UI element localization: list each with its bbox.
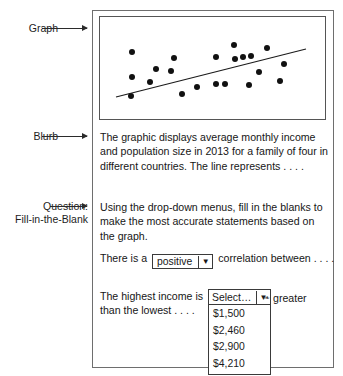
dropdown-amount-header[interactable]: Select… ▼ ❧ [209,290,270,305]
dropdown-amount-option-list[interactable]: $1,500$2,460$2,900$4,210 [209,305,270,374]
statement-income-prefix: The highest income is [100,290,203,302]
scatter-point [231,42,237,48]
statement-income-line2: than the lowest . . . . [100,304,195,316]
dropdown-correlation[interactable]: positive▼ [152,254,213,269]
scatter-point [277,78,283,84]
statement-correlation-prefix: There is a [100,252,147,264]
scatter-point [232,56,238,62]
scatter-point [246,82,252,88]
statement-income-suffix: greater [273,291,307,305]
scatter-point [256,69,262,75]
scatter-point [222,81,228,87]
scatter-point [147,79,153,85]
arrow-to-graph-icon [42,28,87,29]
scatter-point [264,45,270,51]
scatter-point [240,54,246,60]
dropdown-correlation-value: positive [153,255,196,268]
chevron-down-icon[interactable]: ▼ ❧ [257,293,270,302]
blurb-text: The graphic displays average monthly inc… [100,130,328,173]
dropdown-amount-value: Select… [209,292,256,303]
dropdown-amount-option[interactable]: $2,460 [209,323,270,340]
scatter-point [171,55,177,61]
scatter-point [129,49,135,55]
scatter-point [194,84,200,90]
scatter-plot-svg [100,17,325,119]
scatter-plot-graph [99,16,326,120]
dropdown-amount[interactable]: Select… ▼ ❧ $1,500$2,460$2,900$4,210 [208,289,271,375]
scatter-point [248,53,254,59]
statement-correlation-suffix: correlation between . . . . [218,252,334,264]
dropdown-amount-option[interactable]: $2,900 [209,339,270,356]
arrow-to-blurb-icon [42,136,87,137]
trend-line [116,49,306,97]
chevron-down-icon[interactable]: ▼ [199,255,212,268]
scatter-point [153,66,159,72]
scatter-point [213,81,219,87]
scatter-point [213,54,219,60]
scatter-point [179,91,185,97]
scatter-point [168,68,174,74]
question-instructions: Using the drop-down menus, fill in the b… [100,200,328,243]
annotation-question-line2: Fill-in-the-Blank [0,213,88,226]
dropdown-amount-option[interactable]: $1,500 [209,306,270,323]
mouse-cursor-icon: ❧ [264,294,270,302]
dropdown-amount-option[interactable]: $4,210 [209,356,270,373]
statement-income: The highest income is than the lowest . … [100,289,220,318]
scatter-point [281,61,287,67]
scatter-points-group [128,42,287,99]
annotation-question-label: Question: Fill-in-the-Blank [0,200,88,225]
statement-correlation: There is a positive▼ correlation between… [100,250,336,269]
scatter-point [129,74,135,80]
arrow-to-question-icon [50,206,87,207]
